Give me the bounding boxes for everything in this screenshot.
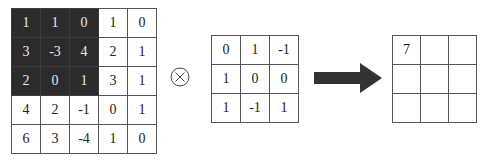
input-cell: 2 xyxy=(41,96,70,125)
kernel-row: 0 1 -1 xyxy=(212,36,299,65)
input-cell-highlighted: 4 xyxy=(70,38,99,67)
input-row: 4 2 -1 0 1 xyxy=(12,96,157,125)
input-cell: 0 xyxy=(128,125,157,154)
kernel-cell: -1 xyxy=(270,36,299,65)
input-row: 3 -3 4 2 1 xyxy=(12,38,157,67)
kernel-cell: 0 xyxy=(212,36,241,65)
input-cell: 0 xyxy=(128,9,157,38)
kernel-cell: 1 xyxy=(241,36,270,65)
kernel-row: 1 -1 1 xyxy=(212,94,299,123)
kernel-cell: 0 xyxy=(270,65,299,94)
kernel-cell: 1 xyxy=(212,94,241,123)
input-cell-highlighted: 1 xyxy=(12,9,41,38)
output-cell xyxy=(449,94,477,123)
kernel-cell: 0 xyxy=(241,65,270,94)
input-row: 1 1 0 1 0 xyxy=(12,9,157,38)
input-cell: -4 xyxy=(70,125,99,154)
circled-times-icon xyxy=(170,67,190,87)
input-cell: 1 xyxy=(128,38,157,67)
output-cell xyxy=(449,36,477,65)
kernel-cell: -1 xyxy=(241,94,270,123)
output-cell xyxy=(421,94,449,123)
output-cell xyxy=(421,65,449,94)
kernel-row: 1 0 0 xyxy=(212,65,299,94)
input-matrix: 1 1 0 1 0 3 -3 4 2 1 2 0 1 3 1 4 2 -1 0 … xyxy=(11,8,157,154)
input-cell: 0 xyxy=(99,96,128,125)
kernel-cell: 1 xyxy=(212,65,241,94)
output-row xyxy=(393,94,477,123)
input-cell: 1 xyxy=(99,125,128,154)
input-cell-highlighted: 1 xyxy=(70,67,99,96)
input-cell: 1 xyxy=(128,96,157,125)
input-cell-highlighted: 0 xyxy=(41,67,70,96)
output-cell xyxy=(393,94,421,123)
input-cell-highlighted: 0 xyxy=(70,9,99,38)
input-cell: 4 xyxy=(12,96,41,125)
input-cell: 1 xyxy=(128,67,157,96)
input-row: 6 3 -4 1 0 xyxy=(12,125,157,154)
output-cell xyxy=(421,36,449,65)
output-cell xyxy=(449,65,477,94)
input-row: 2 0 1 3 1 xyxy=(12,67,157,96)
output-row xyxy=(393,65,477,94)
kernel-matrix: 0 1 -1 1 0 0 1 -1 1 xyxy=(211,35,299,123)
input-cell-highlighted: -3 xyxy=(41,38,70,67)
input-cell-highlighted: 3 xyxy=(12,38,41,67)
right-arrow-icon xyxy=(314,63,382,93)
input-cell: -1 xyxy=(70,96,99,125)
input-cell: 2 xyxy=(99,38,128,67)
input-cell: 3 xyxy=(99,67,128,96)
input-cell-highlighted: 2 xyxy=(12,67,41,96)
input-cell: 3 xyxy=(41,125,70,154)
kernel-cell: 1 xyxy=(270,94,299,123)
input-cell: 1 xyxy=(99,9,128,38)
output-cell xyxy=(393,65,421,94)
input-cell: 6 xyxy=(12,125,41,154)
output-cell: 7 xyxy=(393,36,421,65)
output-row: 7 xyxy=(393,36,477,65)
input-cell-highlighted: 1 xyxy=(41,9,70,38)
output-matrix: 7 xyxy=(392,35,477,123)
